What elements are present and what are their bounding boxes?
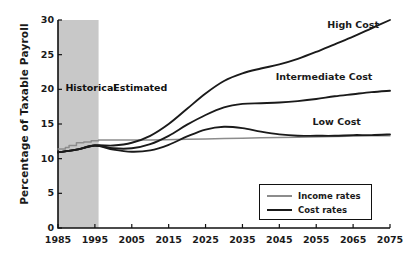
legend-swatch-income-rates (267, 195, 292, 197)
legend-item-income-rates: Income rates (267, 189, 371, 203)
historical-shaded-region (58, 20, 99, 228)
chart-legend: Income rates Cost rates (259, 184, 372, 220)
period-label-estimated: Estimated (113, 83, 167, 93)
legend-label-cost-rates: Cost rates (298, 206, 347, 215)
legend-swatch-cost-rates (267, 209, 292, 211)
curve-label-intermediate-cost: Intermediate Cost (276, 72, 373, 82)
legend-item-cost-rates: Cost rates (267, 203, 371, 217)
curve-label-low-cost: Low Cost (313, 117, 361, 127)
curve-label-high-cost: High Cost (327, 20, 379, 30)
legend-label-income-rates: Income rates (298, 192, 361, 201)
period-label-historical: Historical (65, 83, 116, 93)
